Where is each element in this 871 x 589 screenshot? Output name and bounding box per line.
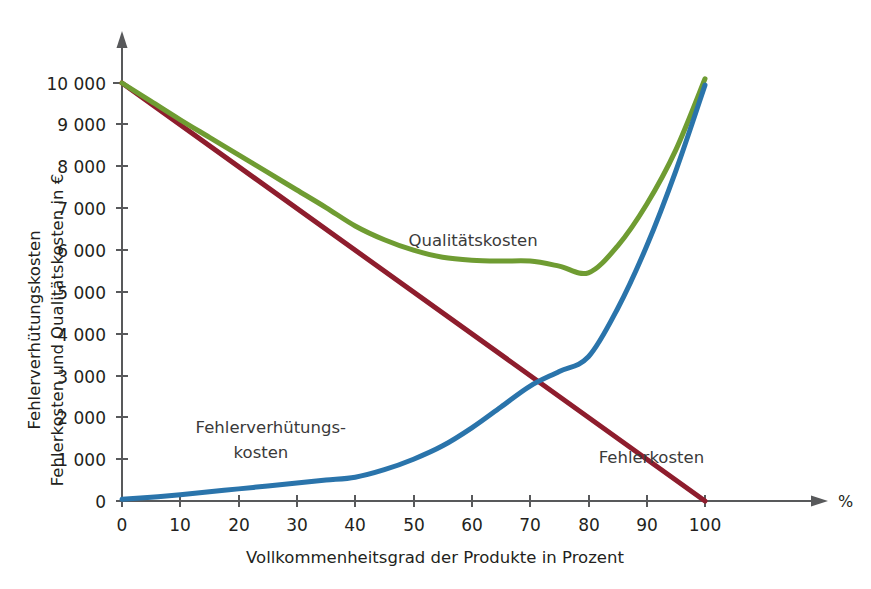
y-tick-marks: [113, 83, 128, 501]
x-tick-label: 10: [169, 515, 191, 535]
annotation-fehlerverhuetungskosten-line-1: Fehlerverhütungs-: [196, 418, 346, 437]
x-tick-label: 20: [228, 515, 250, 535]
cost-of-quality-line-chart: 10 000 9 000 8 000 7 000 6 000 5 000 4 0…: [0, 0, 871, 589]
annotation-fehlerkosten: Fehlerkosten: [599, 448, 704, 467]
annotation-qualitaetskosten: Qualitätskosten: [409, 231, 538, 250]
x-tick-label: 40: [344, 515, 366, 535]
y-axis-title-line-2: Fehlerkosten und Qualitätskosten in €: [48, 174, 67, 486]
x-axis-arrowhead-icon: [811, 496, 828, 507]
x-axis-title: Vollkommenheitsgrad der Produkte in Proz…: [246, 548, 624, 567]
x-tick-label: 50: [403, 515, 425, 535]
y-axis-arrowhead-icon: [117, 31, 128, 48]
x-tick-label: 100: [689, 515, 721, 535]
y-tick-label: 9 000: [57, 115, 106, 135]
x-tick-label: 80: [578, 515, 600, 535]
x-tick-label: 0: [117, 515, 128, 535]
x-tick-labels: 0 10 20 30 40 50 60 70 80 90 100: [117, 515, 722, 535]
chart-page: 10 000 9 000 8 000 7 000 6 000 5 000 4 0…: [0, 0, 871, 589]
x-tick-label: 90: [636, 515, 658, 535]
series-curves: [122, 79, 705, 501]
y-tick-label: 0: [95, 492, 106, 512]
y-tick-label: 10 000: [47, 74, 106, 94]
series-annotations: Qualitätskosten Fehlerverhütungs- kosten…: [196, 231, 705, 467]
x-tick-label: 60: [461, 515, 483, 535]
x-tick-label: 30: [286, 515, 308, 535]
x-axis-unit-label: %: [838, 492, 853, 511]
x-tick-label: 70: [519, 515, 541, 535]
series-line-fehlerkosten: [122, 83, 705, 501]
y-axis-title-line-1: Fehlerverhütungskosten: [25, 230, 44, 429]
annotation-fehlerverhuetungskosten-line-2: kosten: [234, 443, 289, 462]
